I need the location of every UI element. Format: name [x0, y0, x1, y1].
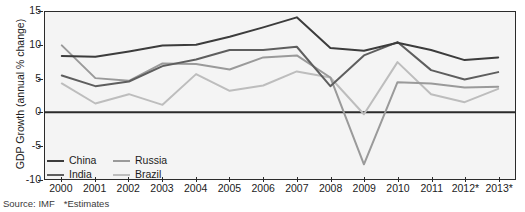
x-tick-mark — [331, 177, 332, 182]
legend-item-china[interactable]: China — [47, 154, 96, 167]
x-tick-label: 2007 — [285, 182, 308, 194]
y-tick-mark — [38, 11, 43, 12]
legend-label: Brazil — [135, 169, 161, 180]
x-tick-label: 2010 — [386, 182, 409, 194]
y-tick-label: 10 — [3, 39, 41, 49]
x-tick-mark — [499, 177, 500, 182]
series-line-china — [62, 17, 498, 60]
legend-swatch-brazil — [113, 174, 130, 176]
y-tick-label: 5 — [3, 73, 41, 83]
x-tick-label: 2006 — [251, 182, 274, 194]
y-tick-mark — [38, 79, 43, 80]
x-tick-label: 2013* — [485, 182, 512, 194]
y-tick-mark — [38, 180, 43, 181]
y-tick-label: 0 — [3, 106, 41, 116]
x-tick-mark — [398, 177, 399, 182]
y-tick-label: 15 — [3, 5, 41, 15]
legend-item-india[interactable]: India — [47, 168, 92, 181]
x-tick-mark — [263, 177, 264, 182]
x-tick-label: 2001 — [83, 182, 106, 194]
gdp-growth-chart: GDP Growth (annual % change) 151050-5-10… — [0, 0, 525, 212]
x-tick-mark — [432, 177, 433, 182]
x-tick-mark — [229, 177, 230, 182]
legend-swatch-russia — [113, 160, 130, 162]
x-tick-label: 2012* — [452, 182, 479, 194]
source-label: Source: IMF — [3, 198, 55, 209]
x-tick-label: 2003 — [150, 182, 173, 194]
legend-item-russia[interactable]: Russia — [113, 154, 167, 167]
y-tick-mark — [38, 45, 43, 46]
x-tick-label: 2009 — [353, 182, 376, 194]
legend-item-brazil[interactable]: Brazil — [113, 168, 161, 181]
y-tick-mark — [38, 112, 43, 113]
estimates-note: *Estimates — [64, 198, 109, 209]
x-tick-label: 2008 — [319, 182, 342, 194]
source-note: Source: IMF*Estimates — [3, 198, 109, 209]
series-line-russia — [62, 45, 498, 164]
x-tick-mark — [465, 177, 466, 182]
x-axis-ticks: 2000200120022003200420052006200720082009… — [44, 182, 516, 196]
y-tick-label: -5 — [3, 140, 41, 150]
y-tick-mark — [38, 146, 43, 147]
y-tick-label: -10 — [3, 174, 41, 184]
x-tick-mark — [297, 177, 298, 182]
chart-legend: ChinaIndiaRussiaBrazil — [47, 154, 177, 182]
x-tick-label: 2002 — [117, 182, 140, 194]
x-tick-mark — [364, 177, 365, 182]
x-tick-label: 2004 — [184, 182, 207, 194]
y-axis-ticks: 151050-5-10 — [0, 0, 41, 212]
legend-swatch-india — [47, 174, 64, 176]
x-tick-label: 2000 — [49, 182, 72, 194]
legend-label: India — [69, 169, 92, 180]
legend-label: Russia — [135, 155, 167, 166]
legend-label: China — [69, 155, 96, 166]
x-tick-mark — [196, 177, 197, 182]
chart-title-cropped — [0, 0, 525, 5]
x-tick-label: 2005 — [218, 182, 241, 194]
legend-swatch-china — [47, 160, 64, 162]
x-tick-label: 2011 — [420, 182, 443, 194]
